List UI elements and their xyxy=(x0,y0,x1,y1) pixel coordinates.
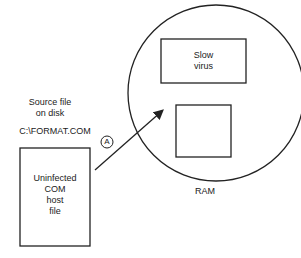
virus-line1: Slow xyxy=(161,50,246,61)
filename-label: C:\FORMAT.COM xyxy=(5,126,105,137)
ram-circle xyxy=(128,5,301,181)
source-label-line2: on disk xyxy=(10,108,90,119)
source-label: Source file on disk xyxy=(10,97,90,119)
ram-label: RAM xyxy=(180,186,230,197)
step-marker: A xyxy=(101,137,113,147)
host-line1: Uninfected xyxy=(20,173,90,184)
empty-memory-box xyxy=(176,105,231,157)
host-line3: host xyxy=(20,195,90,206)
host-file-label: Uninfected COM host file xyxy=(20,173,90,217)
source-label-line1: Source file xyxy=(10,97,90,108)
host-line2: COM xyxy=(20,184,90,195)
host-line4: file xyxy=(20,206,90,217)
virus-line2: virus xyxy=(161,61,246,72)
virus-label: Slow virus xyxy=(161,50,246,72)
